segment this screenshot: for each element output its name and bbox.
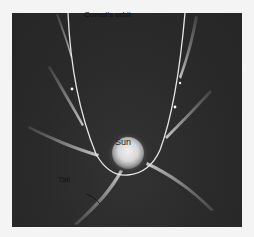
tail-label: Tail: [58, 175, 70, 184]
comet-nuclei: [71, 82, 182, 109]
comet-tails: [28, 14, 214, 225]
comet-tail: [165, 90, 212, 139]
diagram-panel: [12, 13, 242, 227]
sun-label: Sun: [104, 137, 142, 147]
comet-nucleus: [174, 106, 177, 109]
comet-nucleus: [179, 82, 181, 84]
comet-tail: [28, 126, 99, 157]
comet-orbit-diagram: [12, 13, 242, 227]
comet-tail: [74, 170, 123, 225]
comet-tail: [146, 162, 214, 211]
comet-nucleus: [71, 88, 74, 91]
orbit-label: Comet's orbit: [84, 10, 131, 19]
